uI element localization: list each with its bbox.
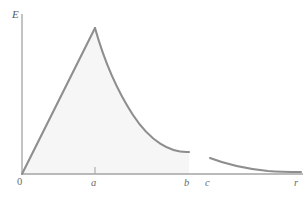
y-axis-label: E (12, 9, 19, 20)
area-under-curve (22, 28, 189, 174)
x-tick-label-a: a (91, 178, 96, 189)
plot-canvas (0, 0, 308, 199)
x-tick-label-origin: 0 (17, 177, 22, 188)
x-tick-label-c: c (205, 178, 210, 189)
x-axis-label: r (294, 178, 298, 189)
tail-branch-curve (210, 158, 301, 172)
figure-container: E 0 a b c r (0, 0, 308, 199)
x-tick-label-b: b (184, 178, 189, 189)
